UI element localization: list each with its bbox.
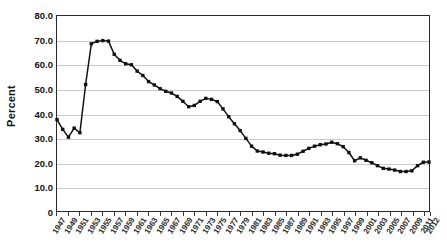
data-point-marker [204,97,207,100]
data-point-marker [227,115,230,118]
data-point-marker [175,95,178,98]
data-point-marker [330,141,333,144]
data-point-marker [387,167,390,170]
data-point-marker [107,39,110,42]
data-point-marker [296,153,299,156]
data-point-marker [416,164,419,167]
data-point-marker [279,153,282,156]
plot-area [56,15,430,212]
y-axis-tick-label: 10.0 [35,182,54,193]
data-point-marker [84,83,87,86]
data-point-marker [347,151,350,154]
y-axis-tick-label-group: 80.070.060.050.040.030.020.010.00 [22,0,56,247]
data-point-marker [55,118,58,121]
data-point-marker [95,40,98,43]
data-point-marker [422,161,425,164]
data-point-marker [72,126,75,129]
data-point-marker [67,135,70,138]
data-point-marker [353,159,356,162]
data-point-marker [181,100,184,103]
data-series-svg [57,16,429,211]
data-point-marker [216,100,219,103]
data-point-marker [410,169,413,172]
data-point-marker [404,170,407,173]
data-point-marker [158,87,161,90]
data-point-marker [393,168,396,171]
data-point-marker [221,107,224,110]
data-point-marker [319,143,322,146]
y-axis-tick-label: 60.0 [35,59,54,70]
y-axis-tick-label: 20.0 [35,157,54,168]
line-chart: Percent 80.070.060.050.040.030.020.010.0… [0,0,447,247]
y-axis-tick-label: 30.0 [35,133,54,144]
data-point-marker [313,144,316,147]
data-point-marker [290,154,293,157]
data-point-marker [153,83,156,86]
data-point-marker [90,42,93,45]
y-axis-tick-label: 0 [48,207,53,218]
data-point-marker [244,137,247,140]
data-point-marker [101,39,104,42]
data-point-marker [135,69,138,72]
data-point-marker [210,98,213,101]
data-point-marker [141,74,144,77]
data-point-marker [170,91,173,94]
y-axis-tick-label: 80.0 [35,10,54,21]
data-point-marker [376,164,379,167]
y-axis-tick-label: 50.0 [35,83,54,94]
data-point-marker [359,156,362,159]
data-point-marker [256,149,259,152]
data-point-marker [324,142,327,145]
data-point-marker [147,80,150,83]
data-point-marker [61,128,64,131]
data-point-marker [301,150,304,153]
data-point-marker [370,161,373,164]
data-point-marker [78,131,81,134]
data-point-marker [233,122,236,125]
y-axis-tick-label: 40.0 [35,108,54,119]
data-point-marker [118,59,121,62]
data-point-marker [364,159,367,162]
data-point-marker [336,142,339,145]
data-point-marker [124,62,127,65]
data-point-marker [341,145,344,148]
data-point-marker [130,63,133,66]
data-point-marker [113,53,116,56]
data-point-marker [250,144,253,147]
y-axis-title-label: Percent [5,85,17,127]
data-point-marker [307,147,310,150]
data-point-marker [187,105,190,108]
data-point-marker [382,167,385,170]
series-markers [55,39,430,173]
x-axis-tick-label-group: 1947194919511953195519571959196119631965… [56,216,430,247]
series-line [57,41,429,172]
data-point-marker [261,150,264,153]
data-point-marker [273,152,276,155]
x-axis-tick [430,212,431,216]
data-point-marker [164,90,167,93]
data-point-marker [193,104,196,107]
data-point-marker [399,170,402,173]
data-point-marker [267,152,270,155]
y-axis-tick-label: 70.0 [35,34,54,45]
y-axis-title: Percent [0,0,22,212]
data-point-marker [284,154,287,157]
data-point-marker [427,160,430,163]
data-point-marker [238,129,241,132]
data-point-marker [198,100,201,103]
